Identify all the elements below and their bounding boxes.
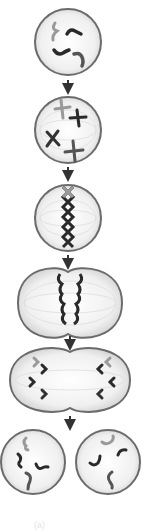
stage-5-cell: [10, 348, 130, 412]
figure-caption: (a): [34, 520, 45, 530]
stage-3-cell: [35, 185, 101, 251]
daughter-cell-right: [76, 430, 140, 494]
stage-2-cell: [35, 97, 101, 163]
stage-4-cell: [18, 268, 122, 338]
mitosis-diagram: [0, 0, 152, 532]
daughter-cell-left: [1, 430, 65, 494]
stage-1-cell: [35, 9, 101, 75]
